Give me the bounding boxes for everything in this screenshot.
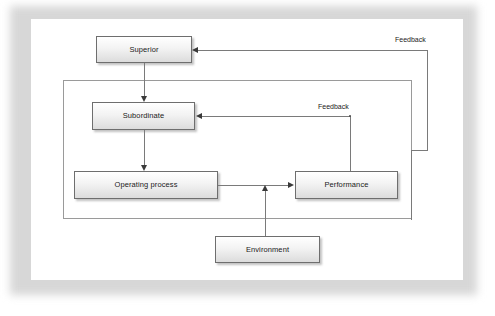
diagram-canvas: Superior Subordinate Operating process P… [0, 0, 495, 316]
node-environment[interactable]: Environment [215, 236, 320, 263]
feedback-inner-horizontal [201, 116, 351, 117]
feedback-outer-label: Feedback [395, 36, 426, 43]
node-subordinate[interactable]: Subordinate [92, 102, 195, 130]
node-performance-label: Performance [324, 181, 368, 189]
edge-environment-line [265, 191, 266, 236]
edge-subordinate-to-operating-line [144, 130, 145, 165]
diagram-surface: Superior Subordinate Operating process P… [31, 19, 463, 280]
edge-superior-to-subordinate-arrowhead [141, 96, 147, 102]
feedback-outer-vertical-lower [411, 150, 412, 220]
edge-environment-arrowhead [262, 185, 268, 191]
edge-operating-to-performance-arrowhead [288, 182, 294, 188]
edge-subordinate-to-operating-arrowhead [141, 165, 147, 171]
feedback-inner-label: Feedback [318, 103, 349, 110]
feedback-outer-vertical-upper [427, 50, 428, 151]
node-superior-label: Superior [129, 46, 158, 54]
feedback-inner-arrowhead [196, 113, 202, 119]
edge-superior-to-subordinate-line [144, 63, 145, 97]
node-performance[interactable]: Performance [295, 171, 398, 199]
feedback-outer-horizontal-top [198, 50, 428, 51]
feedback-outer-horizontal-elbow [411, 150, 428, 151]
node-operating-process-label: Operating process [115, 181, 178, 189]
feedback-inner-junction-dot [349, 115, 351, 117]
node-subordinate-label: Subordinate [123, 112, 165, 120]
node-operating-process[interactable]: Operating process [74, 171, 218, 199]
edge-operating-to-performance-line [218, 185, 289, 186]
feedback-inner-vertical [350, 116, 351, 171]
node-superior[interactable]: Superior [96, 36, 192, 63]
feedback-outer-arrowhead [192, 47, 198, 53]
node-environment-label: Environment [246, 246, 289, 254]
